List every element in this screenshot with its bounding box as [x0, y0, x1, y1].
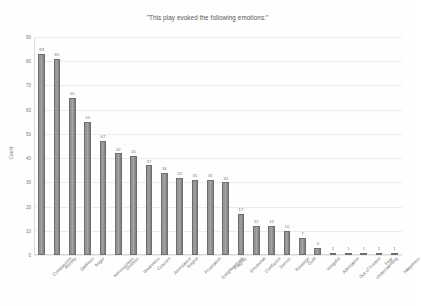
bar-column[interactable]: 1	[391, 37, 397, 255]
y-tick-label: 80	[26, 59, 31, 64]
bar-value-label: 1	[362, 247, 364, 251]
bar-column[interactable]: 55	[84, 37, 90, 255]
bar-column[interactable]: 10	[284, 37, 290, 255]
bar-column[interactable]: 37	[146, 37, 152, 255]
bar[interactable]	[314, 248, 320, 255]
y-axis-label: Count	[9, 147, 14, 160]
plot-area: 0102030405060708090 83816555474241373432…	[34, 37, 402, 255]
bar-value-label: 12	[269, 220, 274, 224]
x-tick-label: Happiness	[403, 256, 421, 275]
bar-column[interactable]: 81	[54, 37, 60, 255]
bar-column[interactable]: 65	[69, 37, 75, 255]
bar-value-label: 37	[147, 160, 152, 164]
bar-value-label: 1	[332, 247, 334, 251]
bar-value-label: 17	[239, 208, 244, 212]
y-tick-label: 40	[26, 156, 31, 161]
x-tick-label: Admiration	[341, 256, 360, 275]
bar-value-label: 1	[378, 247, 380, 251]
bar-column[interactable]: 1	[330, 37, 336, 255]
bar-value-label: 12	[254, 220, 259, 224]
bar-column[interactable]: 1	[360, 37, 366, 255]
bar[interactable]	[222, 182, 228, 255]
bar-value-label: 10	[285, 225, 290, 229]
bars-group: 8381655547424137343231313017121210731111…	[34, 37, 402, 255]
bar[interactable]	[360, 253, 366, 255]
bar-value-label: 1	[393, 247, 395, 251]
x-tick-label: Vengeful	[325, 256, 341, 272]
bar[interactable]	[130, 156, 136, 255]
bar-column[interactable]: 31	[207, 37, 213, 255]
bar-value-label: 83	[39, 48, 44, 52]
bar[interactable]	[207, 180, 213, 255]
bar[interactable]	[69, 98, 75, 255]
bar-column[interactable]: 12	[253, 37, 259, 255]
bar[interactable]	[299, 238, 305, 255]
bar-column[interactable]: 83	[38, 37, 44, 255]
bar[interactable]	[391, 253, 397, 255]
y-tick-label: 20	[26, 204, 31, 209]
bar-column[interactable]: 47	[100, 37, 106, 255]
bar-column[interactable]: 12	[268, 37, 274, 255]
bar-value-label: 31	[208, 174, 213, 178]
y-tick-label: 30	[26, 180, 31, 185]
bar-value-label: 30	[223, 177, 228, 181]
bar[interactable]	[284, 231, 290, 255]
bar-column[interactable]: 42	[115, 37, 121, 255]
bar-column[interactable]: 31	[192, 37, 198, 255]
chart-title: "This play evoked the following emotions…	[0, 14, 415, 21]
bar-column[interactable]: 17	[238, 37, 244, 255]
y-tick-label: 50	[26, 131, 31, 136]
bar-value-label: 7	[301, 232, 303, 236]
bar-column[interactable]: 34	[161, 37, 167, 255]
bar[interactable]	[100, 141, 106, 255]
bar[interactable]	[115, 153, 121, 255]
bar-column[interactable]: 32	[176, 37, 182, 255]
x-tick-label: Frustration	[203, 256, 222, 275]
bar-column[interactable]: 7	[299, 37, 305, 255]
bar-value-label: 34	[162, 167, 167, 171]
bar[interactable]	[161, 173, 167, 255]
y-tick-label: 60	[26, 107, 31, 112]
bar[interactable]	[146, 165, 152, 255]
bar-value-label: 1	[347, 247, 349, 251]
bar-column[interactable]: 41	[130, 37, 136, 255]
bar[interactable]	[176, 178, 182, 256]
bar[interactable]	[330, 253, 336, 255]
bar-value-label: 42	[116, 148, 121, 152]
bar-value-label: 32	[177, 172, 182, 176]
bar-column[interactable]: 1	[345, 37, 351, 255]
bar[interactable]	[253, 226, 259, 255]
bar-value-label: 81	[55, 53, 60, 57]
bar[interactable]	[38, 54, 44, 255]
bar-column[interactable]: 30	[222, 37, 228, 255]
bar-column[interactable]: 3	[314, 37, 320, 255]
bar-value-label: 47	[101, 135, 106, 139]
x-tick-label: Fragility	[232, 256, 247, 271]
bar[interactable]	[238, 214, 244, 255]
bar-value-label: 55	[85, 116, 90, 120]
y-tick-label: 0	[28, 253, 31, 258]
y-tick-label: 90	[26, 35, 31, 40]
bar[interactable]	[192, 180, 198, 255]
bar-value-label: 41	[131, 150, 136, 154]
bar[interactable]	[376, 253, 382, 255]
y-tick-label: 70	[26, 83, 31, 88]
y-tick-label: 10	[26, 228, 31, 233]
x-axis-labels: CompassionAnxietySadnessAngerNervousness…	[34, 256, 402, 306]
bar-column[interactable]: 1	[376, 37, 382, 255]
bar-value-label: 31	[193, 174, 198, 178]
bar-value-label: 3	[316, 242, 318, 246]
bar[interactable]	[84, 122, 90, 255]
bar[interactable]	[345, 253, 351, 255]
bar[interactable]	[268, 226, 274, 255]
bar-value-label: 65	[70, 92, 75, 96]
bar[interactable]	[54, 59, 60, 255]
